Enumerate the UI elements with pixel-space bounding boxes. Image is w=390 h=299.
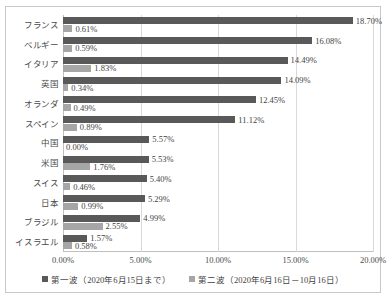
x-axis: 0.00%5.00%10.00%15.00%20.00% xyxy=(63,255,373,269)
bar-group-series-1: 12.45% xyxy=(63,96,373,103)
category-label: 米国 xyxy=(7,158,59,168)
x-axis-tick-label: 0.00% xyxy=(52,255,74,265)
chart-row: ベルギー16.08%0.59% xyxy=(63,35,373,55)
bar-value-label: 0.99% xyxy=(78,202,103,211)
bar-group-series-1: 1.57% xyxy=(63,235,373,242)
bar-group-series-2: 0.61% xyxy=(63,25,373,32)
chart-legend: 第一波（2020年6月15日まで）第二波（2020年6月16日－10月16日） xyxy=(6,273,380,285)
category-label: フランス xyxy=(7,20,59,30)
chart-row: スペイン11.12%0.89% xyxy=(63,114,373,134)
bar-group-series-1: 14.09% xyxy=(63,77,373,84)
chart-row: 米国5.53%1.76% xyxy=(63,153,373,173)
bar-value-label: 0.61% xyxy=(72,24,97,33)
bar-value-label: 0.46% xyxy=(70,182,95,191)
chart-row: イスラエル1.57%0.58% xyxy=(63,232,373,252)
bar-group-series-2: 0.59% xyxy=(63,45,373,52)
bar-group-series-1: 5.29% xyxy=(63,195,373,202)
category-label: オランダ xyxy=(7,99,59,109)
bar-group-series-2: 0.46% xyxy=(63,183,373,190)
bar-series-2 xyxy=(63,65,91,72)
bar-series-2 xyxy=(63,124,77,131)
bar-group-series-2: 0.34% xyxy=(63,84,373,91)
bar-series-2 xyxy=(63,223,103,230)
bar-group-series-1: 11.12% xyxy=(63,116,373,123)
category-label: スペイン xyxy=(7,119,59,129)
gridline-20.00% xyxy=(373,15,374,252)
bar-group-series-2: 1.83% xyxy=(63,65,373,72)
bar-series-1 xyxy=(63,77,281,84)
bar-series-2 xyxy=(63,203,78,210)
legend-label: 第一波（2020年6月15日まで） xyxy=(51,273,171,285)
chart-row: フランス18.70%0.61% xyxy=(63,15,373,35)
legend-entry-series-2[interactable]: 第二波（2020年6月16日－10月16日） xyxy=(189,273,344,285)
bar-value-label: 0.59% xyxy=(72,44,97,53)
bar-value-label: 1.76% xyxy=(90,162,115,171)
bar-value-label: 2.55% xyxy=(103,222,128,231)
category-label: スイス xyxy=(7,178,59,188)
legend-swatch-icon xyxy=(42,276,48,282)
chart-row: 英国14.09%0.34% xyxy=(63,74,373,94)
bar-value-label: 0.49% xyxy=(71,103,96,112)
bar-value-label: 0.00% xyxy=(63,143,88,152)
chart-row: スイス5.40%0.46% xyxy=(63,173,373,193)
bar-group-series-2: 0.99% xyxy=(63,203,373,210)
bar-series-1 xyxy=(63,195,145,202)
category-label: イスラエル xyxy=(7,237,59,247)
bar-group-series-1: 16.08% xyxy=(63,37,373,44)
x-axis-tick-label: 5.00% xyxy=(130,255,152,265)
category-label: 中国 xyxy=(7,138,59,148)
bar-series-2 xyxy=(63,242,72,249)
bar-value-label: 0.89% xyxy=(77,123,102,132)
bar-series-1 xyxy=(63,37,312,44)
bar-group-series-1: 5.40% xyxy=(63,175,373,182)
plot-area: フランス18.70%0.61%ベルギー16.08%0.59%イタリア14.49%… xyxy=(63,15,373,252)
category-label: ブラジル xyxy=(7,217,59,227)
bar-group-series-2: 2.55% xyxy=(63,223,373,230)
bar-group-series-2: 1.76% xyxy=(63,163,373,170)
bar-group-series-2: 0.58% xyxy=(63,242,373,249)
bar-value-label: 0.34% xyxy=(68,83,93,92)
chart-row: ブラジル4.99%2.55% xyxy=(63,213,373,233)
category-label: ベルギー xyxy=(7,40,59,50)
plot-inner: フランス18.70%0.61%ベルギー16.08%0.59%イタリア14.49%… xyxy=(63,15,373,252)
bar-series-2 xyxy=(63,25,72,32)
chart-row: 中国5.57%0.00% xyxy=(63,134,373,154)
chart-row: オランダ12.45%0.49% xyxy=(63,94,373,114)
legend-swatch-icon xyxy=(189,276,195,282)
bar-group-series-2: 0.00% xyxy=(63,144,373,151)
chart-container: フランス18.70%0.61%ベルギー16.08%0.59%イタリア14.49%… xyxy=(5,6,381,293)
bar-group-series-2: 0.89% xyxy=(63,124,373,131)
bar-group-series-1: 5.57% xyxy=(63,136,373,143)
bar-group-series-1: 18.70% xyxy=(63,17,373,24)
x-axis-tick-label: 10.00% xyxy=(205,255,231,265)
bar-series-2 xyxy=(63,45,72,52)
category-label: 英国 xyxy=(7,79,59,89)
bar-series-2 xyxy=(63,183,70,190)
bar-value-label: 1.83% xyxy=(91,64,116,73)
bar-series-2 xyxy=(63,104,71,111)
legend-entry-series-1[interactable]: 第一波（2020年6月15日まで） xyxy=(42,273,171,285)
legend-label: 第二波（2020年6月16日－10月16日） xyxy=(198,273,344,285)
bar-series-2 xyxy=(63,163,90,170)
bar-group-series-2: 0.49% xyxy=(63,104,373,111)
chart-row: 日本5.29%0.99% xyxy=(63,193,373,213)
x-axis-tick-label: 15.00% xyxy=(282,255,308,265)
bar-value-label: 0.58% xyxy=(72,241,97,250)
x-axis-tick-label: 20.00% xyxy=(360,255,386,265)
bar-series-1 xyxy=(63,17,353,24)
chart-row: イタリア14.49%1.83% xyxy=(63,55,373,75)
category-label: 日本 xyxy=(7,198,59,208)
category-label: イタリア xyxy=(7,59,59,69)
